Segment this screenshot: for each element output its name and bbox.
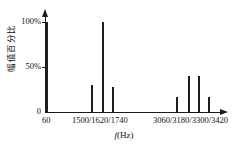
y-tick-label-0: 0 (37, 107, 41, 116)
x-axis-line (45, 112, 221, 113)
x-tick-label-group-1500: 1500/1620/1740 (72, 116, 128, 125)
spectrum-chart-figure: 100% 50% 0 幅值百分比 60 1500/1620/1740 3060/… (0, 0, 248, 151)
plot-area: 100% 50% 0 幅值百分比 60 1500/1620/1740 3060/… (0, 0, 248, 151)
y-axis-arrow-icon (42, 9, 48, 17)
x-tick-label-60: 60 (42, 116, 51, 125)
bar-60hz (46, 22, 48, 112)
bar-3420hz (208, 97, 210, 112)
x-axis-title-unit: (Hz) (117, 130, 134, 140)
y-axis-title: 幅值百分比 (4, 20, 16, 76)
bar-3180hz (188, 76, 190, 112)
y-tick-label-100: 100% (21, 17, 41, 26)
bar-1620hz (102, 22, 104, 112)
bar-3060hz (176, 97, 178, 112)
y-tick-label-50: 50% (25, 62, 41, 71)
bar-1740hz (112, 87, 114, 112)
x-axis-title: f(Hz) (0, 131, 248, 140)
x-tick-label-group-3060: 3060/3180/3300/3420 (153, 116, 228, 125)
bar-3300hz (198, 76, 200, 112)
bar-1500hz (91, 85, 93, 112)
